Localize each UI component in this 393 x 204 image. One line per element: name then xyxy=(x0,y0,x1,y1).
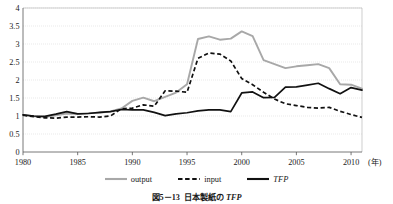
legend-label-output: output xyxy=(131,175,152,184)
x-tick-label: 1980 xyxy=(15,158,31,167)
caption-figure-number: 図5－13 xyxy=(152,193,180,202)
legend-item-tfp: TFP xyxy=(247,175,288,184)
line-swatch-solid-black-icon xyxy=(247,175,269,183)
x-tick-label: 1990 xyxy=(124,158,140,167)
legend-label-tfp: TFP xyxy=(273,175,288,184)
y-tick-label: 3 xyxy=(15,40,19,49)
figure-caption: 図5－13 日本製紙の TFP xyxy=(0,190,393,202)
x-tick-label: 1985 xyxy=(69,158,85,167)
x-axis-unit-label: (年) xyxy=(368,157,382,167)
caption-tfp: TFP xyxy=(226,193,241,202)
series-line-tfp xyxy=(23,83,362,116)
caption-body: 日本製紙の xyxy=(184,193,224,202)
y-tick-label: 4 xyxy=(15,4,19,13)
y-tick-label: 2.5 xyxy=(9,58,19,67)
y-tick-label: 1 xyxy=(15,112,19,121)
x-tick-label: 1995 xyxy=(179,158,195,167)
y-tick-label: 1.5 xyxy=(9,94,19,103)
figure-container: 00.511.522.533.54 1980198519901995200020… xyxy=(0,0,393,204)
x-tick-label: 2000 xyxy=(234,158,250,167)
line-swatch-dashed-black-icon xyxy=(178,175,200,183)
tick-marks-group xyxy=(23,152,351,155)
y-tick-label: 0 xyxy=(15,148,19,157)
legend-item-input: input xyxy=(178,175,221,184)
line-swatch-solid-gray-icon xyxy=(105,175,127,183)
y-axis-labels: 00.511.522.533.54 xyxy=(9,4,19,157)
chart-legend: output input TFP xyxy=(0,172,393,186)
legend-item-output: output xyxy=(105,175,152,184)
legend-label-input: input xyxy=(204,175,221,184)
x-axis-labels: 1980198519901995200020052010 xyxy=(15,158,359,167)
y-tick-label: 3.5 xyxy=(9,22,19,31)
y-tick-label: 2 xyxy=(15,76,19,85)
gridlines-group xyxy=(23,8,362,134)
data-series-group xyxy=(23,31,362,118)
tfp-line-chart: 00.511.522.533.54 1980198519901995200020… xyxy=(0,0,393,172)
y-tick-label: 0.5 xyxy=(9,130,19,139)
chart-plot-area: 00.511.522.533.54 1980198519901995200020… xyxy=(0,0,393,172)
x-tick-label: 2010 xyxy=(343,158,359,167)
x-tick-label: 2005 xyxy=(288,158,304,167)
